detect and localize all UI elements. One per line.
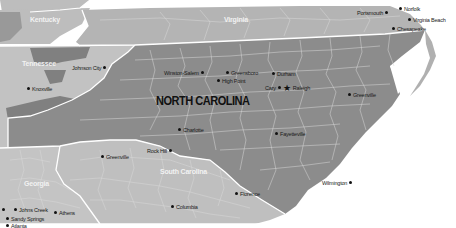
city-florence: Florence: [235, 190, 260, 197]
city-dot-icon: [348, 93, 351, 96]
city-fayetteville: Fayetteville: [275, 130, 305, 137]
city-dot-icon: [6, 217, 9, 220]
city-rock-hill: Rock Hill: [147, 147, 172, 154]
state-label-kentucky: Kentucky: [30, 16, 60, 23]
city-johns-creek: Johns Creek: [14, 206, 48, 213]
city-dot-icon: [217, 79, 220, 82]
city-knoxville: Knoxville: [27, 85, 52, 92]
city-dot-icon: [171, 205, 174, 208]
state-label-georgia: Georgia: [24, 180, 49, 187]
city-dot-icon: [169, 149, 172, 152]
city-dot-icon: [178, 128, 181, 131]
city-norfolk: Norfolk: [399, 5, 420, 12]
city-dot-icon: [201, 71, 204, 74]
city-dot-icon: [275, 132, 278, 135]
city-dot-unlabeled: [2, 206, 5, 212]
city-dot-icon: [103, 66, 106, 69]
city-dot-icon: [392, 27, 395, 30]
city-greensboro: Greensboro: [226, 69, 258, 76]
city-greenville-nc: Greenville: [348, 91, 376, 98]
state-label-virginia: Virginia: [224, 16, 248, 23]
city-dot-icon: [235, 192, 238, 195]
city-dot-icon: [27, 87, 30, 90]
city-dot-icon: [399, 7, 402, 10]
city-charlotte: Charlotte: [178, 126, 204, 133]
city-wilmington: Wilmington: [322, 179, 352, 186]
city-dot-icon: [226, 71, 229, 74]
city-dot-icon: [2, 208, 5, 211]
city-dot-icon: [14, 208, 17, 211]
city-raleigh: ★Raleigh: [283, 84, 310, 91]
state-label-tennessee: Tennessee: [22, 60, 56, 67]
city-dot-icon: [349, 181, 352, 184]
city-dot-icon: [272, 72, 275, 75]
city-high-point: High Point: [217, 77, 245, 84]
city-dot-icon: [101, 155, 104, 158]
city-dot-icon: [408, 18, 411, 21]
state-label-south-carolina: South Carolina: [160, 168, 207, 175]
map-canvas: [0, 0, 456, 228]
city-winston-salem: Winston-Salem: [164, 69, 204, 76]
city-johnson-city: Johnson City: [72, 64, 106, 71]
city-durham: Durham: [272, 70, 295, 77]
city-sandy-springs: Sandy Springs: [6, 215, 44, 222]
city-virginia-beach: Virginia Beach: [408, 16, 446, 23]
city-chesapeake: Chesapeake: [392, 25, 426, 32]
map-title-north-carolina: NORTH CAROLINA: [156, 93, 250, 108]
city-dot-icon: [54, 211, 57, 214]
city-cary: Cary: [265, 84, 281, 91]
star-icon: ★: [283, 83, 291, 93]
city-greenville-sc: Greenville: [101, 153, 129, 160]
city-portsmouth: Portsmouth: [357, 9, 388, 16]
city-atlanta: Atlanta: [6, 222, 27, 228]
city-athens: Athens: [54, 209, 75, 216]
city-dot-icon: [385, 11, 388, 14]
city-dot-icon: [6, 224, 9, 227]
city-columbia: Columbia: [171, 203, 198, 210]
city-dot-icon: [278, 86, 281, 89]
